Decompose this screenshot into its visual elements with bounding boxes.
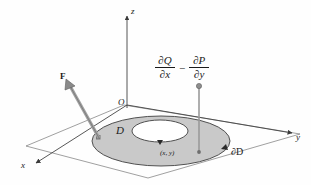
point-dot (197, 150, 201, 154)
fraction-denominator: ∂y (193, 69, 205, 80)
fraction-dP-dy: ∂P ∂y (189, 55, 209, 80)
origin-label: O (118, 98, 125, 107)
partial-derivative-expression: ∂Q ∂x − ∂P ∂y (155, 55, 209, 80)
region-label-D: D (116, 125, 124, 136)
fraction-numerator: ∂P (192, 55, 206, 66)
figure-container: z y x O F D ∂D (x, y) ∂Q ∂x − ∂P ∂y (0, 0, 311, 185)
axis-label-z: z (131, 7, 135, 16)
fraction-dQ-dx: ∂Q ∂x (155, 55, 175, 80)
fraction-denominator: ∂x (159, 69, 171, 80)
fraction-numerator: ∂Q (157, 55, 172, 66)
vector-F-arrow (65, 79, 99, 138)
boundary-label-dD: ∂D (231, 147, 243, 157)
value-dot (196, 83, 201, 88)
region-hole (132, 120, 188, 142)
axis-label-x: x (21, 161, 25, 170)
minus-operator: − (178, 62, 186, 74)
axis-label-y: y (296, 133, 300, 142)
vector-field-label-F: F (60, 72, 66, 81)
point-label-xy: (x, y) (160, 150, 174, 157)
greens-theorem-diagram (0, 0, 311, 185)
